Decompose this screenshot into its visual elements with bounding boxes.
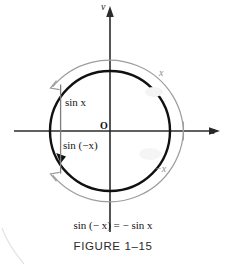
origin-label: O [100, 121, 108, 131]
negative-arc-arrowhead [50, 172, 59, 181]
figure-equation: sin (− x) = − sin x [0, 219, 226, 231]
positive-arc-arrowhead [50, 81, 59, 90]
sin-x-label: sin x [65, 97, 86, 108]
trigonometric-figure: v u O x −x sin x sin (−x) sin (− x) = − … [0, 0, 226, 264]
scan-smudge [145, 87, 163, 97]
scan-smudge-secondary [139, 148, 161, 160]
vertical-axis-arrowhead [106, 6, 114, 17]
figure-caption: FIGURE 1–15 [0, 240, 226, 252]
positive-arc-label: x [159, 68, 163, 78]
sin-neg-x-label: sin (−x) [63, 140, 98, 151]
horizontal-axis-label: u [210, 126, 215, 136]
negative-arc-label: −x [155, 164, 166, 174]
vertical-axis-label: v [101, 2, 105, 12]
